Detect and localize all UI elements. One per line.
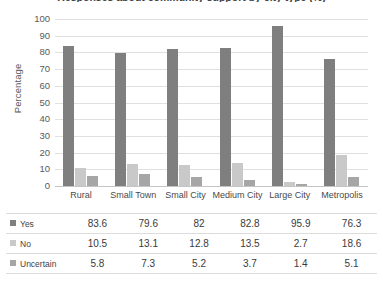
bar [348, 177, 359, 186]
bar [115, 53, 126, 186]
y-tick-label: 10 [24, 164, 50, 174]
table-cell: 79.6 [123, 214, 174, 234]
bar [336, 155, 347, 186]
y-tick-label: 40 [24, 114, 50, 124]
y-tick-label: 100 [24, 14, 50, 24]
y-tick-label: 60 [24, 81, 50, 91]
bar [191, 177, 202, 186]
bar [324, 59, 335, 186]
x-tick-label: Small City [159, 190, 211, 200]
y-tick-label: 50 [24, 98, 50, 108]
x-tick-label: Metropolis [316, 190, 368, 200]
bar [220, 48, 231, 186]
bar [127, 164, 138, 186]
chart-figure: Responses about community support by cit… [0, 0, 383, 293]
table-cell: 13.5 [224, 234, 275, 254]
legend-label: No [20, 239, 31, 249]
table-cell: 76.3 [326, 214, 377, 234]
legend-entry: Uncertain [6, 254, 72, 274]
bar [139, 174, 150, 186]
bar [75, 168, 86, 186]
bar [272, 26, 283, 186]
bar [296, 184, 307, 186]
legend-swatch-icon [10, 240, 16, 246]
bar [179, 165, 190, 186]
table-row: Uncertain5.87.35.23.71.45.1 [6, 254, 377, 274]
bar-group [55, 19, 107, 186]
legend-entry: No [6, 234, 72, 254]
table-cell: 7.3 [123, 254, 174, 274]
y-axis-title: Percentage [12, 24, 23, 154]
bar [87, 176, 98, 186]
table-cell: 95.9 [275, 214, 326, 234]
x-tick-label: Medium City [212, 190, 264, 200]
plot-region: Percentage 1009080706050403020100 RuralS… [0, 0, 383, 205]
table-cell: 82 [174, 214, 225, 234]
table-row: No10.513.112.813.52.718.6 [6, 234, 377, 254]
x-tick-label: Small Town [107, 190, 159, 200]
y-tick-label: 0 [24, 181, 50, 191]
legend-entry: Yes [6, 214, 72, 234]
table-cell: 82.8 [224, 214, 275, 234]
legend-swatch-icon [10, 220, 16, 226]
bars-container [55, 19, 368, 186]
bar-group [212, 19, 264, 186]
table-cell: 5.1 [326, 254, 377, 274]
table-cell: 5.2 [174, 254, 225, 274]
x-tick-label: Large City [264, 190, 316, 200]
bar [167, 49, 178, 186]
table-cell: 83.6 [72, 214, 123, 234]
table-row: Yes83.679.68282.895.976.3 [6, 214, 377, 234]
x-tick-label: Rural [55, 190, 107, 200]
bar-group [107, 19, 159, 186]
bar [63, 46, 74, 186]
y-tick-label: 90 [24, 31, 50, 41]
table-cell: 1.4 [275, 254, 326, 274]
y-tick-label: 70 [24, 64, 50, 74]
y-tick-label: 80 [24, 47, 50, 57]
bar-group [264, 19, 316, 186]
bar [232, 163, 243, 186]
table-cell: 12.8 [174, 234, 225, 254]
bar [244, 180, 255, 186]
axis-line-zero [55, 186, 368, 187]
bar-group [159, 19, 211, 186]
legend-label: Yes [20, 219, 34, 229]
table-cell: 2.7 [275, 234, 326, 254]
y-tick-label: 20 [24, 148, 50, 158]
legend-swatch-icon [10, 260, 16, 266]
table-cell: 18.6 [326, 234, 377, 254]
table-cell: 3.7 [224, 254, 275, 274]
table-cell: 5.8 [72, 254, 123, 274]
data-table: Yes83.679.68282.895.976.3No10.513.112.81… [6, 213, 377, 274]
legend-label: Uncertain [20, 259, 56, 269]
bar-group [316, 19, 368, 186]
y-tick-label: 30 [24, 131, 50, 141]
table-cell: 10.5 [72, 234, 123, 254]
table-cell: 13.1 [123, 234, 174, 254]
bar [284, 182, 295, 187]
